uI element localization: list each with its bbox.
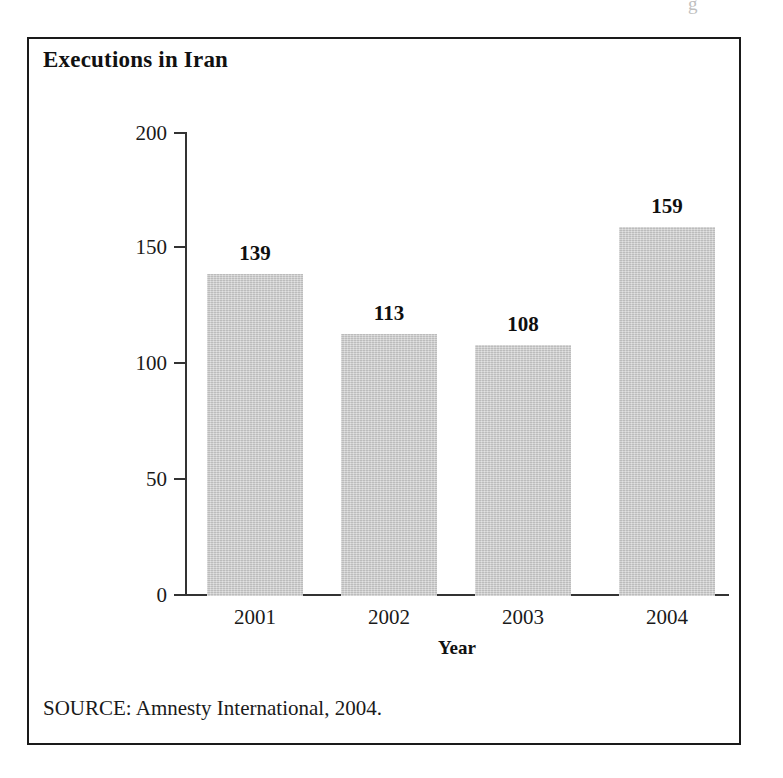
bar-value-2002: 113 xyxy=(341,301,437,326)
y-tick-100: 100 xyxy=(174,362,185,364)
bar-2001[interactable] xyxy=(207,274,303,596)
y-tick-50: 50 xyxy=(174,478,185,480)
scan-artifact: g xyxy=(688,0,706,14)
y-tick-label-150: 150 xyxy=(136,235,168,260)
x-tick-label-2001: 2001 xyxy=(207,605,303,630)
x-axis-title: Year xyxy=(185,637,729,659)
bar-2002[interactable] xyxy=(341,334,437,596)
bar-group-2002: 113 2002 xyxy=(341,132,437,596)
bar-group-2004: 159 2004 xyxy=(619,132,715,596)
y-tick-150: 150 xyxy=(174,246,185,248)
bar-2004[interactable] xyxy=(619,227,715,596)
y-tick-200: 200 xyxy=(174,132,185,134)
x-tick-label-2004: 2004 xyxy=(619,605,715,630)
bar-value-2001: 139 xyxy=(207,241,303,266)
bar-chart: Number of executions 0 50 100 150 200 xyxy=(29,39,739,743)
y-tick-label-50: 50 xyxy=(146,467,167,492)
bar-2003[interactable] xyxy=(475,345,571,596)
y-tick-0: 0 xyxy=(174,594,185,596)
y-axis-title: Number of executions xyxy=(65,0,93,132)
bar-group-2003: 108 2003 xyxy=(475,132,571,596)
bars-layer: 139 2001 113 2002 108 2003 159 2004 xyxy=(185,132,729,596)
y-tick-label-200: 200 xyxy=(136,121,168,146)
x-tick-label-2002: 2002 xyxy=(341,605,437,630)
bar-group-2001: 139 2001 xyxy=(207,132,303,596)
x-tick-label-2003: 2003 xyxy=(475,605,571,630)
figure-frame: Executions in Iran Number of executions … xyxy=(27,37,741,745)
source-note: SOURCE: Amnesty International, 2004. xyxy=(43,696,382,721)
bar-value-2004: 159 xyxy=(619,194,715,219)
y-tick-label-100: 100 xyxy=(136,351,168,376)
plot-area: 0 50 100 150 200 139 2001 xyxy=(185,132,729,596)
bar-value-2003: 108 xyxy=(475,312,571,337)
y-tick-label-0: 0 xyxy=(157,583,168,608)
